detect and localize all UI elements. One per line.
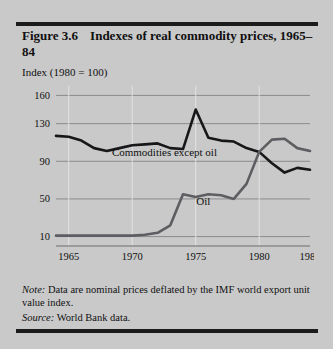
y-tick-label: 50: [40, 193, 51, 204]
axis-index-note: Index (1980 = 100): [22, 66, 107, 78]
horizontal-gridlines: [56, 95, 310, 236]
bottom-rule: [16, 329, 318, 333]
line-chart-svg: 105090130160 19651970197519801984 Commod…: [22, 80, 314, 270]
x-tick-label: 1975: [185, 251, 206, 262]
y-tick-label: 10: [40, 231, 51, 242]
figure-card: Figure 3.6Indexes of real commodity pric…: [0, 0, 333, 349]
data-series-group: [56, 110, 310, 236]
chart-plot-area: 105090130160 19651970197519801984 Commod…: [22, 80, 314, 270]
x-axis-tick-labels: 19651970197519801984: [58, 251, 314, 262]
y-tick-label: 160: [34, 90, 50, 101]
x-tick-label: 1970: [122, 251, 143, 262]
x-tick-label: 1965: [58, 251, 79, 262]
y-tick-label: 130: [34, 118, 50, 129]
x-tick-label: 1984: [300, 251, 315, 262]
figure-title: Figure 3.6Indexes of real commodity pric…: [22, 28, 314, 60]
figure-source: Source: World Bank data.: [22, 311, 314, 324]
vertical-gridlines: [69, 86, 260, 246]
top-rule: [16, 22, 318, 26]
figure-note: Note: Data are nominal prices deflated b…: [22, 283, 314, 310]
note-label: Note:: [22, 284, 45, 295]
series-annotation-group: Commodities except oilOil: [112, 146, 217, 207]
y-tick-label: 90: [40, 156, 51, 167]
x-tick-label: 1980: [249, 251, 270, 262]
note-body: Data are nominal prices deflated by the …: [22, 284, 310, 308]
y-axis-tick-labels: 105090130160: [34, 90, 50, 242]
figure-number: Figure 3.6: [22, 28, 78, 43]
series-label-commodities-except-oil: Commodities except oil: [112, 146, 217, 158]
series-label-oil: Oil: [196, 195, 210, 207]
source-label: Source:: [22, 312, 54, 323]
source-body: World Bank data.: [57, 312, 131, 323]
